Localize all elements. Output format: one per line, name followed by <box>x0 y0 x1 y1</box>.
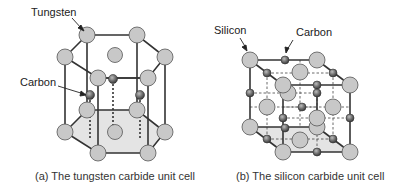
caption-a: (a) The tungsten carbide unit cell <box>35 170 195 182</box>
tungsten-label: Tungsten <box>31 6 76 18</box>
caption-b: (b) The silicon carbide unit cell <box>236 170 384 182</box>
silicon-carbide-cell <box>240 38 358 160</box>
carbon-label-a: Carbon <box>20 76 56 88</box>
tungsten-carbide-cell <box>57 18 173 161</box>
carbon-label-b: Carbon <box>296 26 332 38</box>
silicon-label: Silicon <box>214 24 246 36</box>
unit-cell-diagrams <box>0 0 394 192</box>
